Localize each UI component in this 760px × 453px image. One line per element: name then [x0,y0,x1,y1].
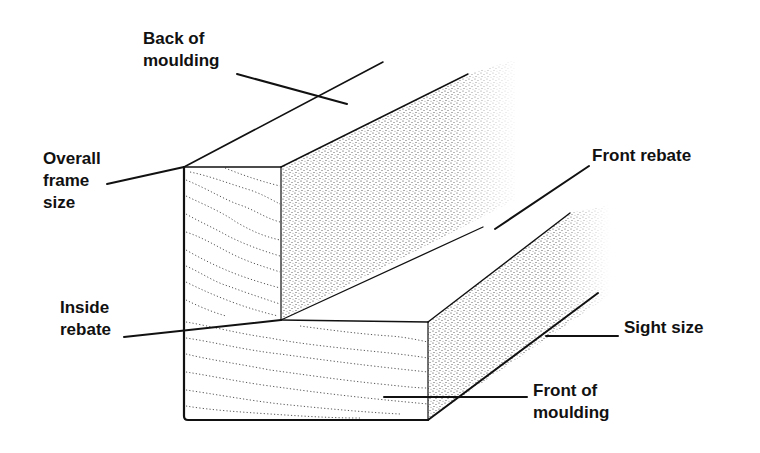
label-back-of-moulding: Back of moulding [143,28,219,72]
label-line: moulding [533,402,609,424]
label-line: Sight size [624,317,703,339]
label-line: moulding [143,50,219,72]
label-front-of-moulding: Front of moulding [533,380,609,424]
label-sight-size: Sight size [624,317,703,339]
label-line: Back of [143,28,219,50]
label-line: Front rebate [592,145,691,167]
label-line: rebate [60,319,111,341]
label-line: size [43,192,101,214]
label-inside-rebate: Inside rebate [60,297,111,341]
label-line: Front of [533,380,609,402]
label-overall-frame-size: Overall frame size [43,148,101,214]
frame-moulding-diagram: Back of moulding Overall frame size Fron… [0,0,760,453]
leader-overall-frame-size [107,167,184,184]
diagram-canvas [0,0,760,453]
label-line: Overall [43,148,101,170]
inner-sloped-face [281,60,515,320]
leader-inside-rebate [124,320,281,337]
label-line: Inside [60,297,111,319]
label-line: frame [43,170,101,192]
label-front-rebate: Front rebate [592,145,691,167]
